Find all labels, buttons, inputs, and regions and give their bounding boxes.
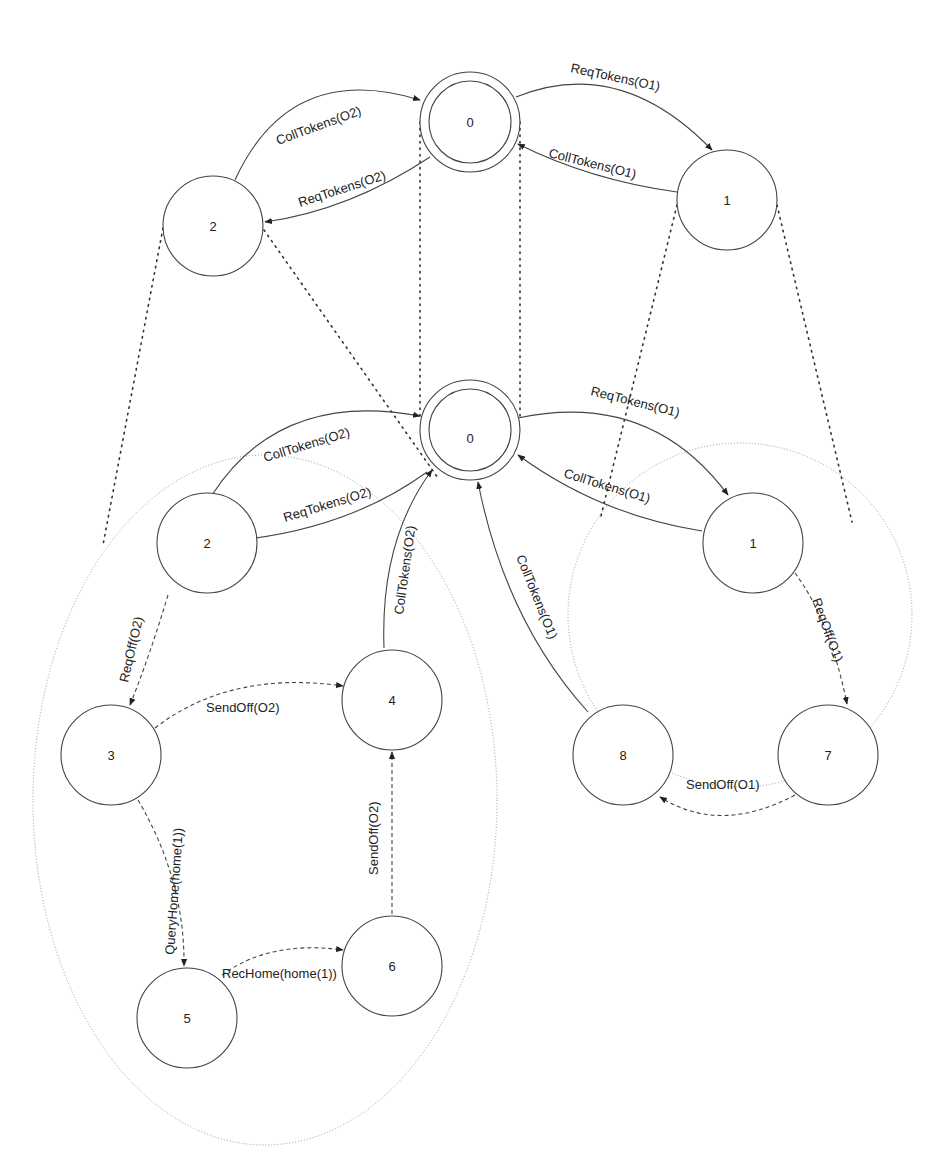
top-edge-label-colltokens-o1: CollTokens(O1) xyxy=(547,145,638,181)
bottom-edge-label-sendoff-o2-horizontal: SendOff(O2) xyxy=(206,700,279,715)
top-edge-label-colltokens-o2: CollTokens(O2) xyxy=(274,103,363,148)
bottom-node-1-label: 1 xyxy=(749,536,756,551)
bottom-edge-label-colltokens-o2-top: CollTokens(O2) xyxy=(261,424,351,465)
bottom-edge-label-rechome: RecHome(home(1)) xyxy=(222,966,337,981)
top-node-0-label: 0 xyxy=(466,115,473,130)
bottom-node-5-label: 5 xyxy=(183,1011,190,1026)
state-diagram: 0 1 2 ReqTokens(O1) CollTokens(O1) ReqTo… xyxy=(0,0,940,1158)
bottom-edge-label-sendoff-o1: SendOff(O1) xyxy=(686,777,759,792)
top-node-1-label: 1 xyxy=(723,193,730,208)
bottom-node-2-label: 2 xyxy=(203,536,210,551)
bottom-edge-label-queryhome: QueryHome(home(1)) xyxy=(162,827,186,955)
bottom-node-3-label: 3 xyxy=(107,748,114,763)
edge-top-0-1 xyxy=(516,84,712,150)
edge-bottom-2-0 xyxy=(212,411,420,495)
bottom-node-8-label: 8 xyxy=(619,748,626,763)
edge-top-2-0 xyxy=(235,90,420,180)
bottom-node-0-label: 0 xyxy=(466,431,473,446)
bottom-edge-label-colltokens-o1-top: CollTokens(O1) xyxy=(562,466,652,507)
top-node-2-label: 2 xyxy=(209,219,216,234)
bottom-edge-label-colltokens-o2-vertical: CollTokens(O2) xyxy=(391,525,418,616)
edge-bottom-7-8 xyxy=(660,795,795,816)
bottom-edge-label-reqoff-o1: ReqOff(O1) xyxy=(809,596,846,664)
bottom-edge-label-colltokens-o1-diagonal: CollTokens(O1) xyxy=(513,553,560,642)
bottom-node-7-label: 7 xyxy=(824,748,831,763)
bottom-node-6-label: 6 xyxy=(388,959,395,974)
bottom-edge-label-reqoff-o2: ReqOff(O2) xyxy=(116,615,146,684)
bottom-edge-label-reqtokens-o2: ReqTokens(O2) xyxy=(281,484,372,525)
bottom-edge-label-sendoff-o2-vertical: SendOff(O2) xyxy=(366,802,381,875)
bottom-machine: 0 1 2 3 4 5 6 7 8 ReqTokens(O1) CollToke… xyxy=(61,380,878,1068)
bottom-node-4-label: 4 xyxy=(388,693,395,708)
top-machine: 0 1 2 ReqTokens(O1) CollTokens(O1) ReqTo… xyxy=(163,60,777,276)
